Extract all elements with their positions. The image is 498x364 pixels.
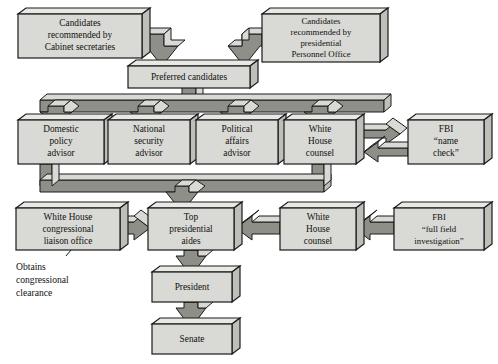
node-president[interactable]: President	[152, 266, 240, 302]
node-label: recommended by	[48, 30, 113, 40]
node-label: counsel	[306, 148, 335, 158]
node-label: FBI	[439, 124, 453, 134]
node-label: White	[307, 212, 330, 222]
node-national-security-advisor[interactable]: National security advisor	[108, 114, 198, 164]
node-label: affairs	[225, 136, 249, 146]
node-label: counsel	[304, 236, 333, 246]
node-label: recommended by	[291, 27, 352, 37]
node-label: Cabinet secretaries	[45, 42, 116, 52]
node-top-presidential-aides[interactable]: Top presidential aides	[148, 202, 242, 250]
node-label: presidential	[169, 224, 213, 234]
annotation-obtains-congressional-clearance: Obtains congressional clearance	[16, 261, 69, 298]
node-label: Top	[184, 212, 199, 222]
node-label: House	[306, 224, 330, 234]
node-preferred-candidates[interactable]: Preferred candidates	[128, 60, 258, 88]
node-wh-congressional-liaison[interactable]: White House congressional liaison office	[16, 202, 128, 250]
node-label: Candidates	[301, 16, 341, 26]
node-label: White	[309, 124, 332, 134]
annotation-line: Obtains	[16, 261, 46, 272]
node-label: investigation”	[414, 236, 463, 246]
node-label: liaison office	[44, 236, 93, 246]
node-label: advisor	[223, 148, 251, 158]
node-label: “name	[434, 136, 458, 146]
node-label: advisor	[135, 148, 163, 158]
flowchart-canvas: Candidates recommended by Cabinet secret…	[0, 0, 498, 364]
edge-counsel-to-aides	[236, 210, 287, 240]
node-label: National	[133, 124, 165, 134]
flowchart-diagram: Candidates recommended by Cabinet secret…	[0, 0, 498, 364]
annotation-line: congressional	[16, 274, 69, 285]
node-domestic-policy-advisor[interactable]: Domestic policy advisor	[18, 114, 112, 164]
node-label: Political	[222, 124, 253, 134]
node-label: Domestic	[43, 124, 79, 134]
node-label: White House	[44, 212, 93, 222]
node-label: congressional	[42, 224, 94, 234]
node-label: FBI	[432, 212, 446, 222]
node-label: policy	[49, 136, 73, 146]
node-label: Preferred candidates	[151, 72, 228, 82]
node-label: check”	[433, 148, 459, 158]
node-political-affairs-advisor[interactable]: Political affairs advisor	[196, 114, 286, 164]
node-label: President	[175, 282, 210, 292]
node-label: presidential	[300, 38, 342, 48]
node-label: Senate	[180, 334, 205, 344]
node-label: aides	[181, 236, 200, 246]
node-label: security	[134, 136, 164, 146]
node-label: Candidates	[59, 18, 101, 28]
annotation-line: clearance	[16, 287, 52, 298]
node-senate[interactable]: Senate	[152, 318, 240, 354]
node-fbi-name-check[interactable]: FBI “name check”	[408, 114, 492, 164]
node-label: “full field	[422, 224, 457, 234]
node-candidates-personnel[interactable]: Candidates recommended by presidential P…	[262, 8, 388, 62]
node-candidates-cabinet[interactable]: Candidates recommended by Cabinet secret…	[18, 8, 150, 58]
node-white-house-counsel-bottom[interactable]: White House counsel	[280, 202, 364, 250]
node-label: advisor	[47, 148, 75, 158]
node-fbi-full-field-investigation[interactable]: FBI “full field investigation”	[394, 202, 492, 250]
node-label: House	[308, 136, 332, 146]
node-label: Personnel Office	[291, 49, 350, 59]
node-white-house-counsel-top[interactable]: White House counsel	[284, 114, 364, 164]
